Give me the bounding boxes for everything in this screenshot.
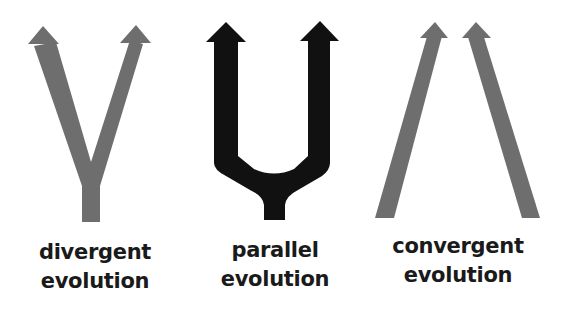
parallel-label: parallel evolution xyxy=(200,236,350,294)
convergent-label-line2: evolution xyxy=(378,261,538,290)
convergent-label: convergent evolution xyxy=(378,232,538,290)
parallel-label-line2: evolution xyxy=(200,265,350,294)
divergent-arrow-icon xyxy=(28,25,151,222)
parallel-arrow-icon xyxy=(206,21,339,220)
divergent-label-line1: divergent xyxy=(20,238,170,267)
divergent-label-line2: evolution xyxy=(20,267,170,296)
convergent-arrow-icon xyxy=(375,22,540,218)
convergent-label-line1: convergent xyxy=(378,232,538,261)
parallel-label-line1: parallel xyxy=(200,236,350,265)
divergent-label: divergent evolution xyxy=(20,238,170,296)
